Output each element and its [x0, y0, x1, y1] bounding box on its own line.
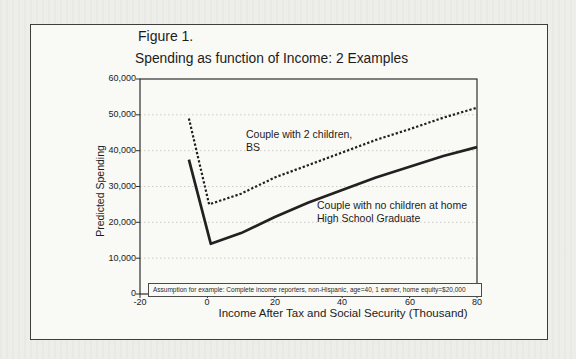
scanned-page: Figure 1. Spending as function of Income… — [0, 0, 576, 359]
y-tick-label-50000: 50,000 — [92, 110, 136, 119]
series-label-no-children-hs: Couple with no children at home High Sch… — [317, 199, 467, 225]
assumption-note: Assumption for example: Complete income … — [148, 283, 482, 297]
series-label-line: Couple with 2 children, — [246, 128, 352, 141]
y-tick-label-60000: 60,000 — [92, 74, 136, 83]
series-label-line: BS — [246, 141, 352, 154]
x-axis-title: Income After Tax and Social Security (Th… — [193, 306, 493, 320]
x-tick-label-neg20: -20 — [118, 297, 162, 307]
series-label-line: High School Graduate — [317, 212, 467, 225]
series-line-two-children-bs — [189, 108, 477, 205]
series-line-no-children-hs — [189, 147, 477, 244]
y-tick-label-10000: 10,000 — [92, 254, 136, 263]
y-axis-title: Predicted Spending — [94, 131, 106, 251]
series-label-line: Couple with no children at home — [317, 199, 467, 212]
series-label-two-children-bs: Couple with 2 children, BS — [246, 128, 352, 154]
